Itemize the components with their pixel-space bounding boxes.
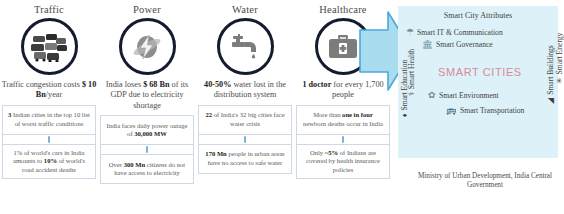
graduation-cap-icon: ♦ [400,113,409,117]
statbox: 3 Indian cities in the top 10 list of wo… [2,105,96,135]
source-caption: Ministry of Urban Development, India Cen… [410,172,560,190]
attribute-smart-buildings: ◢ Smart Buildings [546,45,555,104]
headline-post: /year [46,90,62,99]
attribute-label: Smart Environment [439,91,499,100]
pillar-title-water: Water [232,4,258,16]
leaf-icon: ✿ [428,91,436,100]
statbox: Only ~5% of Indians are covered by healt… [296,144,390,179]
statbox: India faces daily power outage of 30,000… [100,115,194,145]
building-icon: ◢ [546,98,555,104]
energy-burst-icon: ✳ [555,77,564,84]
panel-core-label: SMART CITIES [438,66,522,78]
pillar-headline-power: India loses $ 68 Bn of its GDP due to el… [99,80,195,111]
pillar-headline-traffic: Traffic congestion costs $ 10 Bn/year [1,80,97,101]
antenna-icon: ☂ [406,28,414,37]
attribute-smart-environment: ✿ Smart Environment [428,91,499,100]
statbox-connector [296,135,390,144]
power-bolt-icon [119,18,176,75]
smart-city-panel: Smart City Attributes ☂ Smart IT & Commu… [398,6,558,158]
pillars-section: Traffic [0,0,392,214]
statbox: 170 Mn people in urban areas have no acc… [198,144,292,174]
bus-icon: 🚌 [446,106,457,115]
statbox-group-water: 22 of India's 32 big cities face water c… [198,105,292,174]
infographic-root: Traffic [0,0,564,214]
statbox-connector [100,145,194,154]
attribute-smart-governance: 🏛 Smart Governance [422,40,493,49]
traffic-jam-icon [21,18,78,75]
attribute-smart-health: ⚕ Smart Health [407,49,416,96]
statbox: More than one in four newborn deaths occ… [296,105,390,135]
statbox-group-healthcare: More than one in four newborn deaths occ… [296,105,390,179]
attribute-label: Smart Buildings [546,45,555,95]
government-building-icon: 🏛 [422,40,433,49]
statbox: Over 300 Mn citizens do not have access … [100,154,194,184]
pillar-power: Power India loses $ 68 Bn of its GDP due… [98,0,196,214]
statbox-group-traffic: 3 Indian cities in the top 10 list of wo… [2,105,96,179]
statbox-connector [2,135,96,144]
water-tap-icon [217,18,274,75]
headline-pre: Traffic congestion costs [2,80,82,89]
pillar-water: Water 40-50% water lost in the distribut… [196,0,294,214]
statbox-group-power: India faces daily power outage of 30,000… [100,115,194,184]
attribute-label: Smart Governance [436,40,493,49]
attribute-label: Smart IT & Communication [417,28,503,37]
attribute-label: Smart Transportation [460,106,524,115]
pillar-traffic: Traffic [0,0,98,214]
pillar-headline-water: 40-50% water lost in the distribution sy… [197,80,293,101]
attribute-smart-energy: ✳ Smart Energy [555,33,564,85]
pillar-title-traffic: Traffic [34,4,64,16]
statbox-connector [198,135,292,144]
medical-cross-icon: ⚕ [407,92,416,96]
attribute-label: Smart Energy [555,33,564,75]
statbox: 1% of world's cars in India amounts to 1… [2,144,96,179]
attribute-smart-transportation: 🚌 Smart Transportation [446,106,524,115]
statbox: 22 of India's 32 big cities face water c… [198,105,292,135]
attribute-smart-it: ☂ Smart IT & Communication [406,28,503,37]
pillar-title-power: Power [133,4,161,16]
attribute-label: Smart Health [407,49,416,89]
panel-title: Smart City Attributes [398,11,558,20]
